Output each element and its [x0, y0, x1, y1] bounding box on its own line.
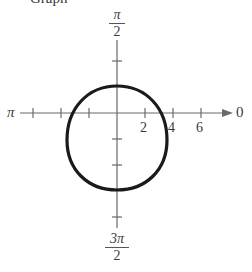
label-pi-over-2: π 2	[109, 8, 125, 39]
tick-label-2: 2	[140, 121, 147, 135]
tick-label-6: 6	[196, 121, 203, 135]
tick-label-4: 4	[168, 121, 175, 135]
axis-arrow-icon	[222, 109, 233, 117]
label-pi: π	[7, 105, 15, 120]
label-3pi-over-2: 3π 2	[105, 232, 129, 263]
label-zero: 0	[236, 105, 244, 120]
